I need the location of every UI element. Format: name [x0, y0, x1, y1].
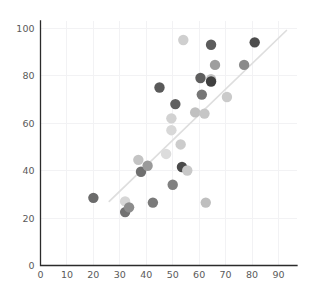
x-axis-tick-labels: 0102030405060708090 [37, 269, 284, 280]
data-point [148, 197, 158, 207]
data-point [182, 165, 192, 175]
data-point [175, 139, 185, 149]
data-point [161, 149, 171, 159]
y-tick-label: 40 [22, 165, 34, 176]
data-point [166, 125, 176, 135]
x-tick-label: 50 [167, 269, 179, 280]
data-point [201, 197, 211, 207]
y-tick-label: 0 [28, 260, 34, 271]
data-point [142, 161, 152, 171]
x-tick-label: 20 [87, 269, 99, 280]
data-point [154, 82, 164, 92]
data-point [168, 180, 178, 190]
x-tick-label: 30 [114, 269, 126, 280]
y-tick-label: 100 [16, 23, 34, 34]
data-point [249, 37, 259, 47]
y-tick-label: 20 [22, 213, 34, 224]
data-point [206, 76, 216, 86]
x-tick-label: 70 [220, 269, 232, 280]
data-points [88, 35, 260, 217]
x-tick-label: 80 [246, 269, 258, 280]
data-point [199, 108, 209, 118]
data-point [197, 89, 207, 99]
plot-area: 0102030405060708090 020406080100 [0, 0, 322, 297]
data-point [190, 107, 200, 117]
x-tick-label: 10 [61, 269, 73, 280]
data-point [239, 60, 249, 70]
x-tick-label: 90 [272, 269, 284, 280]
data-point [210, 60, 220, 70]
y-tick-label: 60 [22, 118, 34, 129]
x-tick-label: 0 [37, 269, 43, 280]
y-tick-label: 80 [22, 70, 34, 81]
data-point [124, 202, 134, 212]
data-point [222, 92, 232, 102]
data-point [88, 193, 98, 203]
x-tick-label: 60 [193, 269, 205, 280]
data-point [170, 99, 180, 109]
data-point [195, 73, 205, 83]
data-point [206, 40, 216, 50]
y-axis-tick-labels: 020406080100 [16, 23, 34, 271]
data-point [133, 155, 143, 165]
data-point [178, 35, 188, 45]
data-point [166, 113, 176, 123]
x-tick-label: 40 [140, 269, 152, 280]
scatter-chart: 0102030405060708090 020406080100 [0, 0, 322, 297]
